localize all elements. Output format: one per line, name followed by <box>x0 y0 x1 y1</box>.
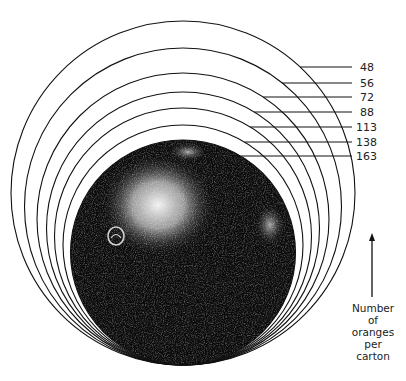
size-label-163: 163 <box>356 150 377 163</box>
size-labels: 48567288113138163 <box>356 61 377 163</box>
size-label-113: 113 <box>356 121 377 134</box>
size-label-88: 88 <box>360 106 374 119</box>
caption-line: Number <box>352 302 395 314</box>
axis-caption: Numberoforangespercarton <box>352 302 395 362</box>
orange-size-diagram: 48567288113138163 Numberoforangespercart… <box>0 0 406 381</box>
size-label-56: 56 <box>360 77 374 90</box>
arrow-head-icon <box>369 233 375 241</box>
size-label-48: 48 <box>360 61 374 74</box>
size-label-72: 72 <box>360 91 374 104</box>
caption-line: per <box>364 338 382 350</box>
caption-line: carton <box>356 350 390 362</box>
caption-line: of <box>368 314 378 326</box>
axis-arrow <box>369 233 375 297</box>
caption-line: oranges <box>352 326 394 338</box>
size-label-138: 138 <box>356 136 377 149</box>
leader-lines <box>241 67 352 156</box>
